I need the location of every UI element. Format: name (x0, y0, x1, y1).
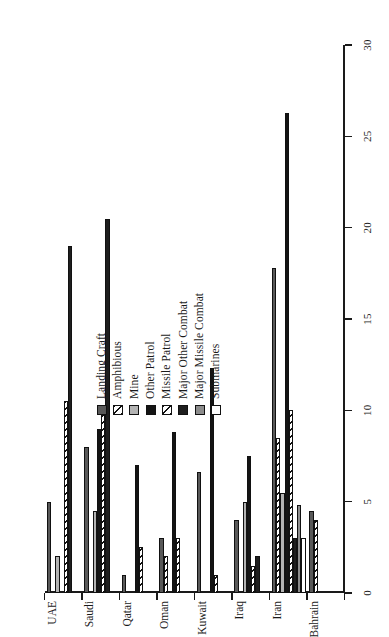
category-tick (306, 593, 307, 600)
value-tick (345, 318, 352, 319)
legend-item-missile-patrol[interactable]: Missile Patrol (162, 293, 173, 415)
legend-label: Major Other Combat (178, 301, 190, 399)
legend-label: Submarines (210, 344, 222, 399)
legend-item-other-patrol[interactable]: Other Patrol (145, 293, 156, 415)
category-tick (81, 593, 82, 600)
value-tick-label: 25 (361, 121, 373, 151)
value-tick (345, 410, 352, 411)
bar-iran-submarines (301, 538, 305, 593)
legend-item-major-missile-combat[interactable]: Major Missile Combat (194, 293, 205, 415)
legend-label: Landing Craft (96, 333, 108, 399)
bar-iraq-landing-craft (234, 520, 238, 593)
value-tick (345, 227, 352, 228)
legend-item-major-other-combat[interactable]: Major Other Combat (178, 293, 189, 415)
category-label-oman: Oman (158, 601, 170, 629)
category-label-bahrain: Bahrain (308, 601, 320, 637)
bar-qatar-landing-craft (122, 575, 126, 593)
legend-swatch-icon (195, 405, 205, 415)
category-tick (344, 593, 345, 600)
value-tick-label: 15 (361, 304, 373, 334)
category-label-iran: Iran (271, 601, 283, 620)
bar-uae-mine (55, 556, 59, 593)
legend-item-submarines[interactable]: Submarines (211, 293, 222, 415)
legend-swatch-icon (178, 405, 188, 415)
bar-iraq-major-other-combat (255, 556, 259, 593)
value-tick-label: 5 (361, 487, 373, 517)
category-label-qatar: Qatar (121, 601, 133, 627)
legend-label: Amphibious (112, 341, 124, 399)
value-tick-label: 0 (361, 578, 373, 608)
bar-oman-missile-patrol (176, 538, 180, 593)
legend-item-landing-craft[interactable]: Landing Craft (96, 293, 107, 415)
category-tick (44, 593, 45, 600)
legend: Landing CraftAmphibiousMineOther PatrolM… (96, 293, 227, 415)
category-label-saudi: Saudi (83, 601, 95, 627)
legend-label: Other Patrol (145, 341, 157, 399)
bar-oman-amphibious (164, 556, 168, 593)
legend-swatch-icon (113, 405, 123, 415)
value-tick-label: 10 (361, 395, 373, 425)
category-tick (119, 593, 120, 600)
category-label-iraq: Iraq (233, 601, 245, 620)
value-tick-label: 30 (361, 30, 373, 60)
legend-label: Mine (129, 374, 141, 399)
bar-uae-major-other-combat (68, 246, 72, 593)
bar-bahrain-amphibious (314, 520, 318, 593)
value-tick-label: 20 (361, 213, 373, 243)
legend-swatch-icon (211, 405, 221, 415)
legend-swatch-icon (97, 405, 107, 415)
value-tick (345, 501, 352, 502)
legend-item-mine[interactable]: Mine (129, 293, 140, 415)
value-tick (345, 136, 352, 137)
value-tick (345, 44, 352, 45)
value-tick (345, 592, 352, 593)
bar-qatar-missile-patrol (139, 547, 143, 593)
category-label-uae: UAE (46, 601, 58, 625)
legend-swatch-icon (129, 405, 139, 415)
category-label-kuwait: Kuwait (196, 601, 208, 635)
legend-swatch-icon (146, 405, 156, 415)
bar-kuwait-landing-craft (197, 472, 201, 593)
category-tick (156, 593, 157, 600)
category-tick (194, 593, 195, 600)
legend-swatch-icon (162, 405, 172, 415)
legend-item-amphibious[interactable]: Amphibious (112, 293, 123, 415)
category-tick (269, 593, 270, 600)
bar-kuwait-missile-patrol (214, 575, 218, 593)
bar-uae-landing-craft (47, 502, 51, 593)
legend-label: Major Missile Combat (194, 293, 206, 399)
category-tick (231, 593, 232, 600)
bar-saudi-landing-craft (84, 447, 88, 593)
legend-label: Missile Patrol (161, 333, 173, 399)
